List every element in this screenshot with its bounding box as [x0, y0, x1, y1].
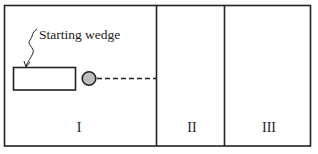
ball [82, 72, 96, 86]
region-label-II: II [187, 120, 197, 135]
annotation-label: Starting wedge [39, 27, 120, 42]
region-label-III: III [262, 120, 276, 135]
diagram-canvas: Starting wedge I II III [0, 0, 318, 154]
annotation-arrow [26, 29, 37, 66]
starting-wedge [14, 68, 76, 91]
region-label-I: I [77, 120, 82, 135]
